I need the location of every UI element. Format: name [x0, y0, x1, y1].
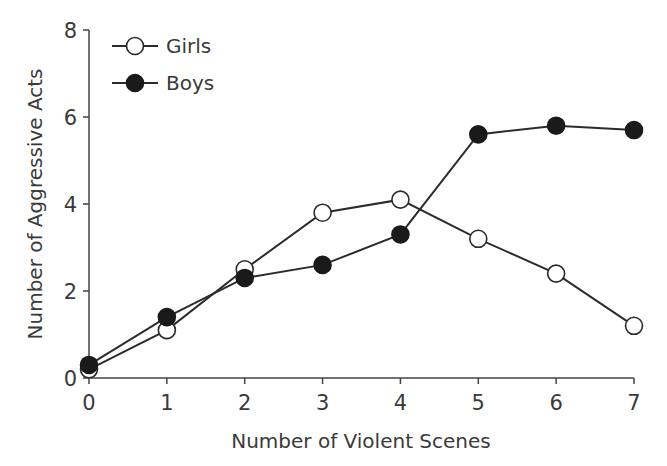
line-chart: 0246801234567 GirlsBoys Number of Violen… [0, 0, 667, 466]
x-tick-label: 3 [316, 391, 329, 415]
x-tick-label: 0 [82, 391, 95, 415]
y-tick-label: 8 [64, 19, 77, 43]
open-circle-marker [548, 265, 565, 282]
filled-circle-marker [392, 226, 409, 243]
filled-circle-marker [158, 309, 175, 326]
axes: 0246801234567 [64, 19, 641, 415]
x-tick-label: 4 [394, 391, 407, 415]
open-circle-marker [470, 230, 487, 247]
legend-item-boys: Boys [112, 71, 214, 95]
open-circle-marker [392, 191, 409, 208]
open-circle-icon [127, 38, 144, 55]
filled-circle-marker [314, 256, 331, 273]
y-axis-label: Number of Aggressive Acts [23, 69, 47, 340]
y-tick-label: 6 [64, 106, 77, 130]
series-line [89, 200, 634, 370]
x-tick-label: 5 [472, 391, 485, 415]
filled-circle-icon [127, 75, 144, 92]
series-girls [81, 191, 643, 378]
legend-item-girls: Girls [112, 34, 211, 58]
legend-label: Boys [166, 71, 214, 95]
y-tick-label: 0 [64, 367, 77, 391]
filled-circle-marker [81, 356, 98, 373]
y-tick-label: 4 [64, 193, 77, 217]
open-circle-marker [626, 317, 643, 334]
filled-circle-marker [236, 269, 253, 286]
legend: GirlsBoys [112, 34, 214, 95]
y-tick-label: 2 [64, 280, 77, 304]
legend-label: Girls [166, 34, 211, 58]
data-series [81, 117, 643, 378]
filled-circle-marker [470, 126, 487, 143]
x-axis-label: Number of Violent Scenes [231, 429, 491, 453]
x-tick-label: 6 [549, 391, 562, 415]
x-tick-label: 7 [627, 391, 640, 415]
filled-circle-marker [626, 122, 643, 139]
x-tick-label: 2 [238, 391, 251, 415]
open-circle-marker [314, 204, 331, 221]
filled-circle-marker [548, 117, 565, 134]
x-tick-label: 1 [160, 391, 173, 415]
